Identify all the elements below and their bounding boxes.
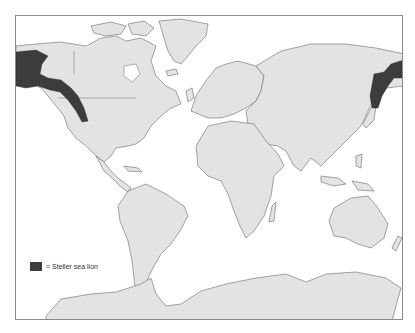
world-map bbox=[15, 15, 403, 320]
map-canvas bbox=[16, 16, 403, 320]
caribbean bbox=[124, 166, 142, 172]
legend-swatch bbox=[30, 262, 42, 271]
australia bbox=[329, 196, 388, 248]
arctic-islands bbox=[128, 21, 154, 36]
central-america bbox=[96, 156, 131, 192]
new-guinea bbox=[352, 181, 374, 191]
uk bbox=[186, 88, 194, 102]
antarctica bbox=[46, 272, 401, 320]
legend-label: = Steller sea lion bbox=[46, 263, 98, 270]
legend: = Steller sea lion bbox=[30, 262, 98, 271]
new-zealand bbox=[392, 236, 402, 251]
madagascar bbox=[269, 202, 276, 222]
iceland bbox=[166, 69, 178, 76]
greenland bbox=[159, 19, 208, 64]
indonesia bbox=[321, 176, 346, 186]
arctic-islands bbox=[91, 22, 126, 36]
philippines bbox=[356, 154, 362, 168]
